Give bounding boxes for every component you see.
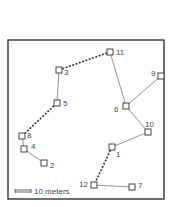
node-5: 5	[54, 99, 68, 108]
edge-5-3	[57, 70, 59, 103]
node-square-icon	[129, 184, 135, 190]
edge-10-1	[112, 132, 148, 147]
node-label: 8	[27, 131, 32, 140]
node-2: 2	[41, 160, 55, 170]
node-label: 12	[79, 180, 88, 189]
node-label: 2	[50, 161, 55, 170]
node-square-icon	[19, 133, 25, 139]
node-12: 12	[79, 180, 97, 189]
node-square-icon	[21, 146, 27, 152]
node-square-icon	[158, 73, 164, 79]
node-label: 5	[63, 99, 68, 108]
edge-6-9	[126, 76, 161, 106]
edges-layer	[22, 52, 161, 187]
node-label: 11	[116, 48, 125, 57]
edge-12-7	[94, 185, 132, 187]
node-6: 6	[114, 103, 129, 114]
node-label: 1	[116, 150, 121, 159]
node-1: 1	[109, 144, 121, 159]
scale-bar-label: 10 meters	[34, 187, 70, 196]
node-square-icon	[145, 129, 151, 135]
node-10: 10	[145, 120, 154, 135]
node-9: 9	[151, 69, 164, 79]
node-square-icon	[41, 160, 47, 166]
node-7: 7	[129, 181, 143, 190]
scale-bar: 10 meters	[15, 187, 70, 196]
node-label: 10	[145, 120, 154, 129]
node-label: 9	[151, 69, 156, 78]
node-square-icon	[91, 182, 97, 188]
node-square-icon	[123, 103, 129, 109]
node-label: 7	[138, 181, 143, 190]
diagram-frame	[8, 40, 164, 199]
node-label: 4	[31, 142, 36, 151]
node-3: 3	[56, 67, 69, 77]
network-diagram: 123456789101112 10 meters	[0, 0, 169, 207]
node-square-icon	[56, 67, 62, 73]
node-label: 3	[64, 68, 69, 77]
edge-11-6	[110, 52, 126, 106]
node-label: 6	[114, 105, 119, 114]
node-11: 11	[107, 48, 125, 57]
node-square-icon	[107, 49, 113, 55]
node-square-icon	[109, 144, 115, 150]
edge-1-12	[94, 147, 112, 185]
node-square-icon	[54, 100, 60, 106]
